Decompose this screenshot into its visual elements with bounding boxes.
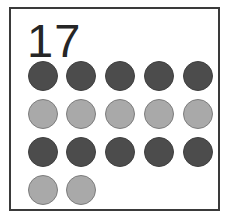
dot-row (28, 99, 220, 137)
count-label: 17 (27, 17, 81, 64)
dot-light (66, 99, 96, 129)
dot-dark (66, 61, 96, 91)
dot-row (28, 175, 220, 213)
dot-row (28, 61, 220, 99)
dot-dark (28, 61, 58, 91)
dot-dark (183, 137, 213, 167)
dot-dark (105, 137, 135, 167)
dot-dark (144, 137, 174, 167)
dot-light (183, 99, 213, 129)
card-frame: 17 (9, 7, 220, 211)
dot-dark (105, 61, 135, 91)
dot-dark (144, 61, 174, 91)
dot-dark (66, 137, 96, 167)
dot-dark (183, 61, 213, 91)
dot-light (66, 175, 96, 205)
dot-dark (28, 137, 58, 167)
dot-light (105, 99, 135, 129)
dot-grid (28, 61, 220, 213)
dot-light (144, 99, 174, 129)
counting-card: 17 (0, 0, 229, 220)
dot-light (28, 175, 58, 205)
dot-row (28, 137, 220, 175)
dot-light (28, 99, 58, 129)
